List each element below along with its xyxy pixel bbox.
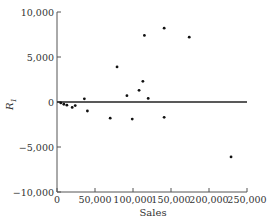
data-point	[230, 156, 233, 159]
x-tick-label: 150,000	[151, 194, 190, 205]
x-axis: 050,000100,000150,000200,000250,000	[54, 188, 267, 205]
x-tick-label: 200,000	[189, 194, 228, 205]
y-axis: 10,0005,0000−5,000−10,000	[13, 7, 61, 198]
data-point	[86, 110, 89, 113]
y-tick-label: 0	[48, 97, 54, 108]
y-tick-label: −10,000	[13, 187, 54, 198]
y-tick-label: −5,000	[19, 142, 54, 153]
data-point	[71, 106, 74, 109]
residual-scatter-chart: 10,0005,0000−5,000−10,000 050,000100,000…	[0, 0, 267, 222]
data-point	[62, 103, 65, 106]
data-point	[163, 27, 166, 30]
data-point	[147, 97, 150, 100]
data-point	[59, 102, 62, 105]
x-tick-label: 0	[54, 194, 60, 205]
x-tick-label: 250,000	[227, 194, 266, 205]
data-point	[74, 104, 77, 107]
plot-area: 10,0005,0000−5,000−10,000 050,000100,000…	[0, 0, 267, 222]
y-tick-label: 5,000	[27, 52, 54, 63]
x-tick-label: 50,000	[78, 194, 111, 205]
data-point	[126, 94, 129, 97]
data-point	[116, 66, 119, 69]
data-point	[143, 34, 146, 37]
x-axis-label: Sales	[139, 207, 166, 218]
data-point	[138, 89, 141, 92]
data-points	[59, 27, 232, 159]
data-point	[188, 36, 191, 39]
data-point	[131, 118, 134, 121]
svg-text:R1: R1	[4, 98, 18, 111]
data-point	[83, 97, 86, 100]
y-tick-label: 10,000	[21, 7, 54, 18]
y-axis-label: R1	[4, 98, 18, 111]
data-point	[65, 104, 68, 107]
data-point	[109, 117, 112, 120]
x-tick-label: 100,000	[113, 194, 152, 205]
data-point	[163, 116, 166, 119]
y-axis-label-sub: 1	[10, 98, 18, 102]
data-point	[141, 80, 144, 83]
